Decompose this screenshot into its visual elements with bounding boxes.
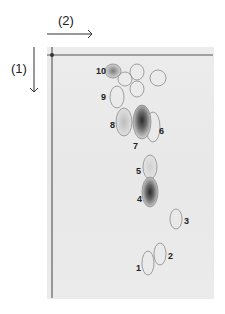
- arrow-right-icon: [47, 30, 92, 38]
- spot-5: [143, 155, 157, 179]
- spot-label-3: 3: [184, 217, 189, 226]
- origin-point: [50, 53, 54, 57]
- spot-9: [110, 86, 124, 108]
- spot-label-6: 6: [159, 127, 164, 136]
- direction-label-2: (2): [58, 13, 74, 28]
- spot-8: [116, 108, 132, 136]
- spot-unlabeled-c: [130, 81, 144, 97]
- spot-4: [142, 177, 158, 207]
- spot-2: [154, 243, 166, 265]
- spot-label-10: 10: [96, 67, 106, 76]
- spot-3: [170, 209, 182, 229]
- direction-label-1: (1): [11, 61, 27, 76]
- diagram-canvas: [0, 0, 225, 314]
- spot-label-9: 9: [101, 93, 106, 102]
- spot-unlabeled-b: [130, 64, 144, 80]
- spot-label-4: 4: [137, 195, 142, 204]
- arrow-down-icon: [30, 47, 38, 92]
- spot-label-5: 5: [136, 167, 141, 176]
- spot-unlabeled-d: [150, 70, 166, 86]
- spot-label-8: 8: [110, 121, 115, 130]
- spot-label-1: 1: [136, 264, 141, 273]
- spot-label-7: 7: [133, 142, 138, 151]
- spot-1: [142, 251, 154, 275]
- spot-label-2: 2: [168, 252, 173, 261]
- spot-7: [133, 105, 151, 139]
